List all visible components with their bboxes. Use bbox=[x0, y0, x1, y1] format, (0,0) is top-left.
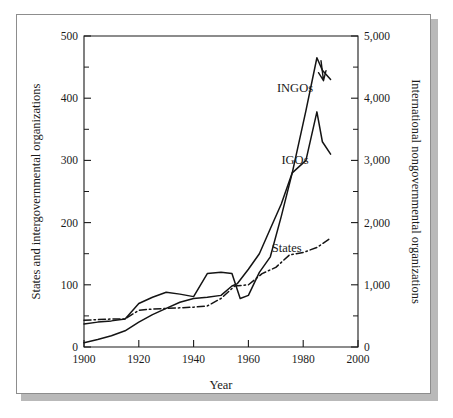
left-axis: 0100200300400500 bbox=[61, 30, 91, 353]
line-chart: 0100200300400500 01,0002,0003,0004,0005,… bbox=[0, 0, 453, 418]
series-label-states: States bbox=[272, 241, 302, 255]
x-tick-label: 1940 bbox=[182, 353, 205, 365]
left-tick-label: 300 bbox=[61, 154, 79, 166]
series-label-ingos: INGOs bbox=[277, 81, 313, 95]
left-tick-label: 500 bbox=[61, 30, 79, 42]
plot-frame bbox=[84, 36, 358, 347]
x-tick-label: 1960 bbox=[237, 353, 260, 365]
left-tick-label: 100 bbox=[61, 279, 79, 291]
x-tick-label: 1980 bbox=[292, 353, 315, 365]
left-tick-label: 200 bbox=[61, 217, 79, 229]
x-axis-title: Year bbox=[209, 378, 233, 392]
right-tick-label: 0 bbox=[364, 341, 370, 353]
x-axis: 190019201940196019802000 bbox=[73, 340, 370, 365]
series-label-igos: IGOs bbox=[281, 153, 308, 167]
right-tick-label: 5,000 bbox=[364, 30, 390, 43]
left-tick-label: 400 bbox=[61, 92, 79, 104]
series-line-ingos bbox=[84, 58, 331, 343]
series-group bbox=[84, 58, 331, 343]
x-tick-label: 1900 bbox=[73, 353, 96, 365]
x-tick-label: 1920 bbox=[127, 353, 150, 365]
y2-axis-title: International nongovernmental organizati… bbox=[409, 79, 423, 304]
series-line-igos bbox=[84, 112, 331, 324]
right-tick-label: 2,000 bbox=[364, 217, 390, 230]
figure-root: 0100200300400500 01,0002,0003,0004,0005,… bbox=[0, 0, 453, 418]
right-tick-label: 3,000 bbox=[364, 154, 390, 167]
y-axis-title: States and intergovernmental organizatio… bbox=[29, 83, 43, 299]
x-tick-label: 2000 bbox=[347, 353, 370, 365]
right-tick-label: 1,000 bbox=[364, 279, 390, 292]
right-axis: 01,0002,0003,0004,0005,000 bbox=[351, 30, 390, 353]
right-tick-label: 4,000 bbox=[364, 92, 390, 105]
left-tick-label: 0 bbox=[72, 341, 78, 353]
